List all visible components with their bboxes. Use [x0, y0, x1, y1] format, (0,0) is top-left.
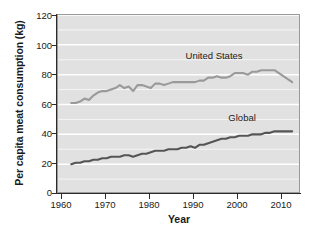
y-tick-label: 0: [26, 188, 52, 198]
series-label-united-states: United States: [186, 51, 243, 61]
series-lines: [71, 70, 292, 164]
series-label-global: Global: [228, 113, 255, 123]
x-tick-label: 1970: [85, 200, 125, 210]
y-tick-label: 100: [26, 41, 52, 51]
x-tick-label: 2010: [261, 200, 301, 210]
plot-canvas: [58, 15, 300, 193]
figure: Per capita meat consumption (kg) 120 100…: [0, 0, 313, 238]
y-tick-label: 60: [26, 100, 52, 110]
x-tick-label: 2000: [217, 200, 257, 210]
x-tick-label: 1990: [173, 200, 213, 210]
plot-area: [57, 14, 300, 193]
x-tick-label: 1980: [129, 200, 169, 210]
gridlines: [58, 15, 300, 179]
x-tick-label: 1960: [41, 200, 81, 210]
y-tick-label: 80: [26, 70, 52, 80]
y-tick-label: 120: [26, 11, 52, 21]
x-axis-title: Year: [57, 213, 301, 225]
series-line: [71, 131, 292, 164]
y-tick-label: 40: [26, 129, 52, 139]
figure-caption: [8, 231, 308, 238]
y-tick-label: 20: [26, 159, 52, 169]
x-axis-line: [57, 193, 301, 194]
